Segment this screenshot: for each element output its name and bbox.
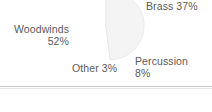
pie-chart-figure: Brass 37% Woodwinds 52% Other 3% Percuss…: [0, 0, 212, 112]
slice-label-brass: Brass 37%: [146, 1, 198, 13]
slice-label-woodwinds: Woodwinds 52%: [1, 24, 69, 47]
divider-line-primary: [0, 86, 212, 87]
pie-slice-woodwinds: [106, 0, 144, 60]
slice-label-other: Other 3%: [72, 63, 117, 75]
divider-line-secondary: [0, 88, 212, 89]
pie-chart-graphic: [72, 0, 140, 60]
slice-label-woodwinds-value: 52%: [1, 36, 69, 48]
pie-svg: [72, 0, 140, 60]
slice-label-percussion-value: 8%: [135, 68, 188, 80]
slice-label-woodwinds-name: Woodwinds: [1, 24, 69, 36]
slice-label-percussion: Percussion 8%: [135, 56, 188, 79]
slice-label-percussion-name: Percussion: [135, 56, 188, 68]
